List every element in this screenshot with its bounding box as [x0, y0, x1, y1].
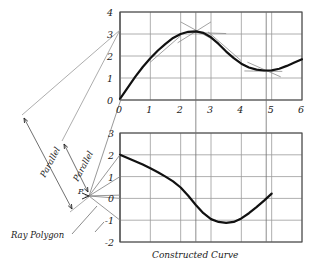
top-chart-grid: [120, 12, 302, 100]
svg-text:4: 4: [236, 104, 243, 115]
parallel-dimension-lines: [22, 30, 120, 212]
svg-text:5: 5: [268, 104, 274, 115]
svg-text:2: 2: [106, 51, 113, 62]
svg-text:-2: -2: [105, 237, 114, 248]
tick-labels: 0123456012343210-1-2: [105, 7, 304, 248]
svg-text:1: 1: [108, 172, 114, 183]
graphical-integration-figure: 0123456012343210-1-2 Parallel Parallel R…: [0, 0, 311, 265]
pole-label: P: [77, 187, 84, 196]
figure-caption: Constructed Curve: [152, 250, 238, 260]
svg-text:-1: -1: [105, 215, 114, 226]
tangent-segments: [150, 22, 282, 77]
svg-text:3: 3: [108, 128, 114, 139]
svg-text:3: 3: [207, 104, 213, 115]
svg-text:2: 2: [107, 150, 114, 161]
ray-polygon-label: Ray Polygon: [10, 230, 64, 240]
svg-text:0: 0: [116, 104, 122, 115]
svg-text:0: 0: [107, 95, 113, 106]
svg-text:2: 2: [176, 104, 183, 115]
svg-text:6: 6: [298, 104, 304, 115]
svg-text:1: 1: [146, 104, 152, 115]
svg-text:4: 4: [106, 7, 113, 18]
svg-text:3: 3: [107, 29, 113, 40]
figure-root: 0123456012343210-1-2 Parallel Parallel R…: [0, 0, 311, 265]
svg-text:1: 1: [107, 73, 113, 84]
parallel-label-inner: Parallel: [70, 149, 95, 184]
bottom-chart-grid: [120, 133, 302, 242]
svg-text:0: 0: [108, 193, 114, 204]
